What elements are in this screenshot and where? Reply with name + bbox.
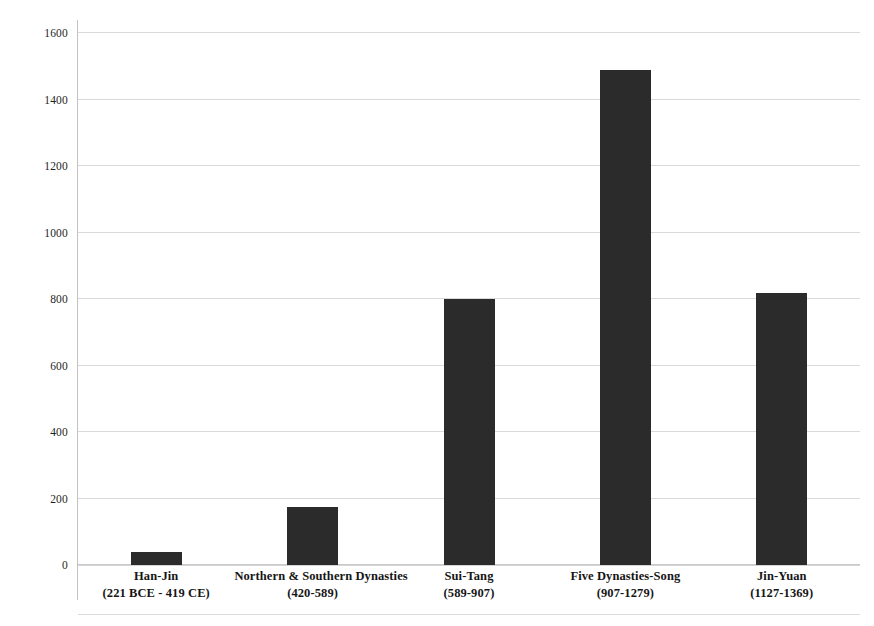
x-axis-category-label: Five Dynasties-Song(907-1279) [547, 568, 703, 602]
x-axis-category-label: Jin-Yuan(1127-1369) [704, 568, 860, 602]
bar [444, 299, 495, 565]
y-tick-label: 200 [50, 493, 68, 505]
category-name: Sui-Tang [391, 568, 547, 585]
bar [756, 293, 807, 565]
bar [600, 70, 651, 565]
x-axis-category-label: Han-Jin(221 BCE - 419 CE) [78, 568, 234, 602]
category-name: Five Dynasties-Song [547, 568, 703, 585]
y-tick-label: 600 [50, 360, 68, 372]
y-tick-label: 1400 [44, 94, 68, 106]
bars-layer [78, 33, 860, 565]
x-axis-category-label: Northern & Southern Dynasties(420-589) [234, 568, 390, 602]
category-date-range: (420-589) [234, 585, 390, 602]
y-tick-label: 0 [62, 559, 68, 571]
bar-chart: 02004006008001000120014001600 Han-Jin(22… [0, 0, 874, 626]
category-date-range: (221 BCE - 419 CE) [78, 585, 234, 602]
bar [131, 552, 182, 565]
y-tick-label: 1200 [44, 160, 68, 172]
x-axis-category-labels: Han-Jin(221 BCE - 419 CE)Northern & Sout… [78, 568, 860, 616]
y-axis-tick-labels: 02004006008001000120014001600 [0, 33, 68, 565]
bar [287, 507, 338, 565]
category-name: Han-Jin [78, 568, 234, 585]
y-tick-label: 800 [50, 293, 68, 305]
category-date-range: (1127-1369) [704, 585, 860, 602]
category-name: Jin-Yuan [704, 568, 860, 585]
category-date-range: (907-1279) [547, 585, 703, 602]
y-tick-label: 1600 [44, 27, 68, 39]
y-tick-label: 400 [50, 426, 68, 438]
x-axis-top-rule [78, 565, 860, 566]
x-axis-category-label: Sui-Tang(589-907) [391, 568, 547, 602]
category-name: Northern & Southern Dynasties [234, 568, 390, 585]
category-date-range: (589-907) [391, 585, 547, 602]
y-tick-label: 1000 [44, 227, 68, 239]
